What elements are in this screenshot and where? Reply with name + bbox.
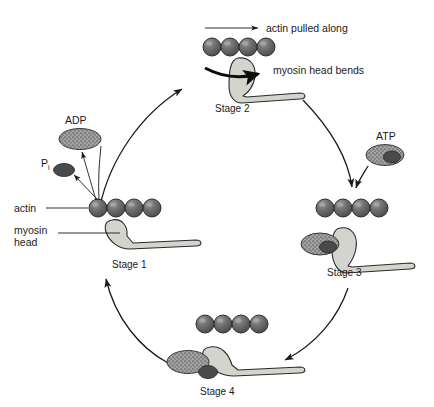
atp-label: ATP <box>376 130 396 142</box>
myosin-head-bends-label: myosin head bends <box>273 64 364 76</box>
arrow-release-to-adp <box>82 152 96 200</box>
actin-filament-stage-3 <box>316 199 388 217</box>
actin-filament-stage-4 <box>196 315 268 333</box>
stage-2-label: Stage 2 <box>215 103 250 114</box>
arrow-stage1-to-stage2 <box>100 89 182 206</box>
stage-1-group: Stage 1 ADP P i <box>41 114 201 270</box>
stage-1-label: Stage 1 <box>112 259 147 270</box>
adp-released-molecule <box>59 129 101 150</box>
stage-4-label: Stage 4 <box>200 386 235 397</box>
phosphate-bound-stage-3 <box>320 241 337 253</box>
myosin-head-label-line2: head <box>14 236 38 248</box>
stage-2-group: actin pulled along myosin head bends Sta… <box>203 22 364 114</box>
arrow-atp-to-stage3 <box>356 166 368 188</box>
pi-bound-stage-4 <box>199 366 218 379</box>
myosin-head-label-line1: myosin <box>14 224 47 236</box>
diagram-canvas: actin pulled along myosin head bends Sta… <box>0 0 434 407</box>
pi-label: P <box>41 157 48 169</box>
actin-label: actin <box>14 202 36 214</box>
pi-released-molecule <box>54 164 75 177</box>
arrow-stage2-to-stage3 <box>303 100 352 187</box>
stage-3-group: Stage 3 <box>301 199 415 278</box>
atp-phosphate <box>384 151 401 163</box>
actin-filament-stage-2 <box>203 38 275 56</box>
stage-4-group: Stage 4 <box>167 315 305 397</box>
myosin-stage-1 <box>105 220 201 249</box>
actin-filament-stage-1 <box>89 199 161 217</box>
myosin-cross-bridge-cycle-diagram: actin pulled along myosin head bends Sta… <box>0 0 434 407</box>
atp-molecule-group: ATP <box>356 130 404 188</box>
arrow-release-fan-extra <box>99 146 101 200</box>
actin-pulled-along-label: actin pulled along <box>266 22 348 34</box>
arrow-release-to-pi <box>74 175 98 200</box>
arrow-stage3-to-stage4 <box>285 288 348 360</box>
adp-label: ADP <box>65 114 87 126</box>
pi-subscript-label: i <box>48 164 50 171</box>
arrow-stage4-to-stage1 <box>106 279 168 363</box>
stage-3-label: Stage 3 <box>327 267 362 278</box>
